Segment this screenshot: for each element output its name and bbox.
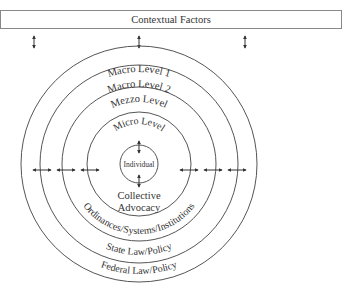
macro-level-2-label: Macro Level 2 <box>106 78 173 95</box>
state-law-label: State Law/Policy <box>105 240 173 257</box>
nested-levels-diagram: Macro Level 1 Macro Level 2 Mezzo Level … <box>0 0 354 297</box>
micro-level-label: Micro Level <box>111 115 167 133</box>
advocacy-label: Advocacy <box>118 202 161 213</box>
federal-law-label: Federal Law/Policy <box>100 259 178 276</box>
individual-label: Individual <box>124 160 155 169</box>
collective-label: Collective <box>117 190 160 201</box>
macro-level-1-label: Macro Level 1 <box>106 63 172 79</box>
mezzo-level-label: Mezzo Level <box>109 93 169 110</box>
